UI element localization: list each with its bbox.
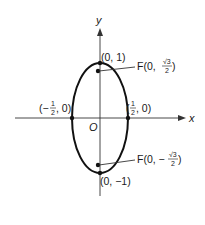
focus-upper-label: F(0, √3 2 ) (137, 58, 176, 74)
svg-text:): ) (178, 153, 182, 165)
svg-text:F(0, −: F(0, − (137, 153, 165, 165)
svg-text:√3: √3 (163, 58, 171, 65)
svg-text:, 0): , 0) (56, 102, 71, 114)
svg-text:): ) (172, 60, 176, 72)
y-axis-label: y (95, 14, 103, 26)
ellipse-diagram: x y O (0, 1) (0, −1) (− 1 2 , 0) ( 1 2 ,… (0, 0, 205, 225)
svg-text:F(0,: F(0, (137, 60, 156, 72)
svg-text:(: ( (126, 102, 130, 114)
left-vertex-point (70, 116, 74, 120)
y-axis-arrow-icon (97, 28, 103, 36)
svg-text:(−: (− (39, 102, 49, 114)
svg-text:√3: √3 (169, 151, 177, 158)
svg-text:1: 1 (51, 100, 55, 107)
bottom-vertex-label: (0, −1) (100, 175, 131, 187)
x-axis-arrow-icon (178, 115, 186, 121)
y-axis: y (95, 14, 103, 196)
focus-upper-leader (99, 67, 135, 71)
focus-lower-label: F(0, − √3 2 ) (137, 151, 182, 167)
left-vertex-label: (− 1 2 , 0) (39, 100, 71, 116)
right-vertex-point (126, 116, 130, 120)
svg-text:2: 2 (171, 160, 175, 167)
top-vertex-label: (0, 1) (101, 51, 126, 63)
svg-text:1: 1 (131, 100, 135, 107)
right-vertex-label: ( 1 2 , 0) (126, 100, 151, 116)
origin-label: O (89, 121, 98, 133)
svg-text:2: 2 (165, 67, 169, 74)
x-axis-label: x (188, 112, 195, 124)
svg-text:2: 2 (51, 109, 55, 116)
svg-text:, 0): , 0) (136, 102, 151, 114)
svg-text:2: 2 (131, 109, 135, 116)
